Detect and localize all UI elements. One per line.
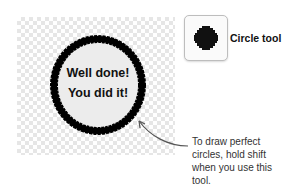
callout-text: To draw perfect circles, hold shift when… xyxy=(192,135,292,187)
